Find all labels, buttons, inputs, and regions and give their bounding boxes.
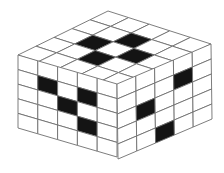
cube-svg xyxy=(0,0,224,173)
isometric-cube-diagram xyxy=(0,0,224,173)
